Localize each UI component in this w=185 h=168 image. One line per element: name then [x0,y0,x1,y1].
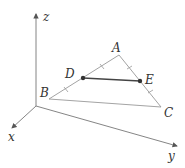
point-e-label: E [144,73,154,87]
vertex-a-label: A [111,41,121,55]
x-axis-label: x [8,130,15,144]
vertex-b-label: B [39,86,49,100]
z-axis-label: z [42,10,50,24]
y-axis-label: y [167,149,175,163]
vertex-c-label: C [164,106,173,120]
point-d-label: D [64,67,75,81]
diagram-canvas: z x y A B C D E [0,0,185,168]
edge-bc [49,99,161,107]
y-axis [36,106,177,146]
point-e [138,79,142,83]
point-d [81,76,85,80]
segment-de [83,78,140,81]
x-axis [12,106,36,128]
